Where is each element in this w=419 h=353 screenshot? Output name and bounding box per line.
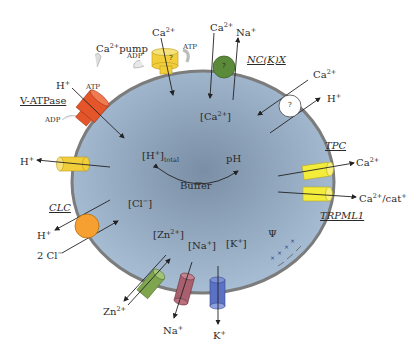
- k-ion-label: K+: [213, 330, 226, 341]
- ca-pump-ion-label: Ca2+: [152, 27, 175, 38]
- lumen-na-concentration: [Na+]: [188, 240, 216, 251]
- exchanger-h-label: H+: [327, 93, 341, 104]
- clc-cl-label: 2 Cl−: [37, 250, 63, 261]
- membrane-potential-psi: Ψ: [268, 229, 277, 239]
- tpc-name-label: TPC: [325, 141, 346, 151]
- buffer-label: Buffer: [180, 181, 212, 191]
- diagram-canvas: ××××: [0, 0, 419, 353]
- v-atpase-adp-label: ADP: [45, 117, 60, 124]
- lumen-h-total: [H+]total: [142, 150, 179, 164]
- trpml1-name-label: TRPML1: [320, 211, 364, 221]
- svg-text:×: ×: [290, 237, 295, 244]
- lumen-cl-concentration: [Cl−]: [128, 198, 152, 209]
- exchanger-unknown-mark: ?: [288, 102, 292, 109]
- nckx-ca-label: Ca2+: [210, 22, 233, 33]
- h-leak-label: H+: [20, 156, 34, 167]
- nckx-unknown-mark: ?: [222, 63, 226, 70]
- nckx-name-label: NC(K)X: [247, 55, 286, 65]
- lysosome-diagram: ×××× Ca2+ Ca2+pump ATP ADP ? Ca2+ Na+ NC…: [0, 0, 419, 353]
- ca-pump-adp-label: ADP: [127, 53, 142, 60]
- lumen-zn-concentration: [Zn2+]: [153, 229, 184, 240]
- v-atpase-atp-label: ATP: [86, 84, 100, 91]
- svg-text:×: ×: [277, 249, 282, 256]
- lumen-k-concentration: [K+]: [226, 238, 247, 249]
- lumen-ca-concentration: [Ca2+]: [200, 111, 231, 122]
- trpml1-ion-label: Ca2+/cat+: [359, 193, 407, 204]
- svg-text:×: ×: [270, 254, 275, 261]
- clc-name-label: CLC: [49, 203, 71, 213]
- nckx-na-label: Na+: [236, 27, 256, 38]
- na-ion-label: Na+: [163, 325, 183, 336]
- zn-ion-label: Zn2+: [103, 306, 126, 317]
- v-atpase-name-label: V-ATPase: [20, 96, 66, 106]
- tpc-ion-label: Ca2+: [356, 157, 379, 168]
- clc-h-label: H+: [37, 230, 51, 241]
- exchanger-ca-label: Ca2+: [313, 69, 336, 80]
- lumen-ph: pH: [226, 154, 241, 164]
- ca-pump-atp-label: ATP: [183, 44, 197, 51]
- svg-text:×: ×: [284, 243, 289, 250]
- ca-pump-unknown-mark: ?: [169, 55, 173, 62]
- v-atpase-ion-label: H+: [56, 80, 70, 91]
